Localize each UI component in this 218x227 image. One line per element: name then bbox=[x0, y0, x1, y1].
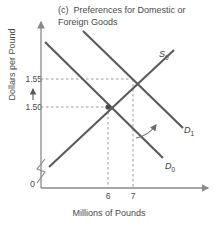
chart-figure: (c)Preferences for Domestic or Foreign G… bbox=[0, 0, 218, 227]
equilibrium-point-initial bbox=[105, 104, 110, 109]
demand-shift-arrow bbox=[136, 125, 156, 138]
demand-curve-d0 bbox=[45, 42, 163, 158]
chart-plot-area bbox=[0, 0, 218, 227]
